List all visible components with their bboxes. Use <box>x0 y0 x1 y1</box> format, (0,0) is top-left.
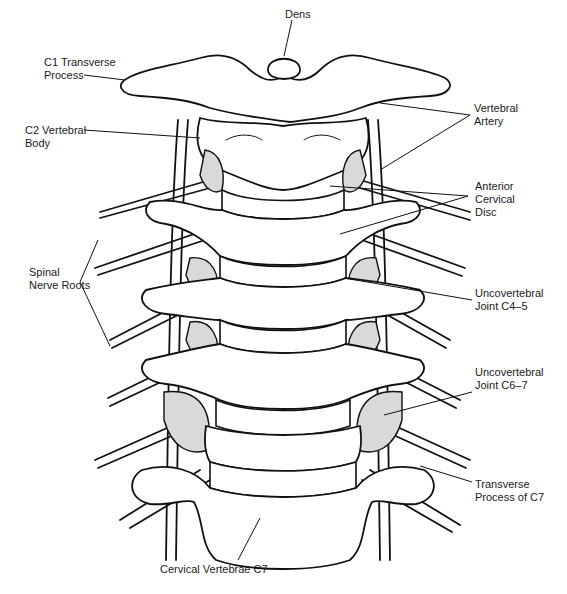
label-transverse-process-c7: Transverse Process of C7 <box>475 478 544 504</box>
label-spinal-nerve-roots: Spinal Nerve Roots <box>29 266 90 292</box>
label-uncovertebral-joint-c4-5: Uncovertebral Joint C4–5 <box>475 287 543 313</box>
label-uncovertebral-joint-c6-7: Uncovertebral Joint C6–7 <box>475 366 543 392</box>
dens-shape <box>268 59 300 79</box>
anatomy-figure: Dens C1 Transverse Process C2 Vertebral … <box>0 0 567 594</box>
label-cervical-vertebrae-c7: Cervical Vertebrae C7 <box>160 563 268 576</box>
label-c1-transverse-process: C1 Transverse Process <box>44 56 116 82</box>
c1-atlas <box>121 55 450 122</box>
label-anterior-cervical-disc: Anterior Cervical Disc <box>475 180 515 219</box>
label-dens: Dens <box>285 8 311 21</box>
label-c2-vertebral-body: C2 Vertebral Body <box>25 124 86 150</box>
label-vertebral-artery: Vertebral Artery <box>474 102 518 128</box>
